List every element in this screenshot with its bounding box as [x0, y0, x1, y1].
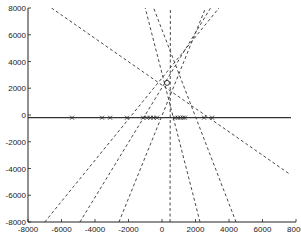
- x-tick-label: 6000: [254, 225, 272, 234]
- dashed-line: [154, 8, 236, 222]
- y-tick-label: -4000: [6, 165, 27, 174]
- x-tick-label: -6000: [51, 225, 72, 234]
- x-tick-label: 0: [160, 225, 165, 234]
- circle-marker-icon: [165, 80, 170, 85]
- y-tick-label: -8000: [6, 218, 27, 227]
- y-tick-label: -6000: [6, 191, 27, 200]
- plot-area: [28, 8, 291, 222]
- y-tick-label: 0: [22, 111, 27, 120]
- y-tick-label: 8000: [8, 4, 26, 13]
- x-tick-label: 4000: [220, 225, 238, 234]
- dashed-line: [80, 8, 211, 222]
- x-tick-label: -4000: [85, 225, 106, 234]
- chart: -8000-6000-4000-200002000400060008000-80…: [0, 0, 301, 236]
- x-tick-label: 8000: [287, 225, 301, 234]
- x-tick-label: 2000: [187, 225, 205, 234]
- y-tick-label: 6000: [8, 31, 26, 40]
- y-tick-label: -2000: [6, 138, 27, 147]
- x-tick-label: -2000: [118, 225, 139, 234]
- dashed-line: [145, 8, 200, 222]
- y-tick-label: 2000: [8, 84, 26, 93]
- y-tick-label: 4000: [8, 58, 26, 67]
- series-group: [28, 8, 291, 222]
